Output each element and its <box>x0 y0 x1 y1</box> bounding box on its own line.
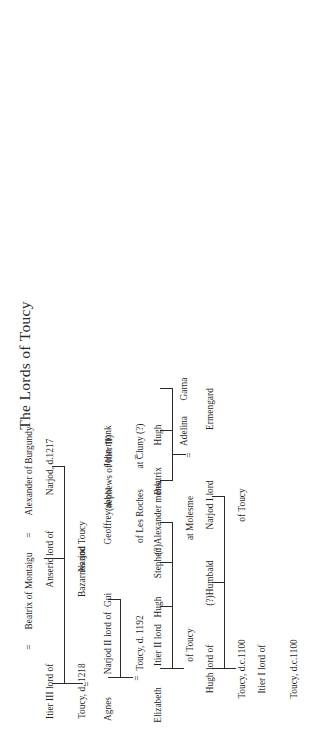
person-line-2: at Cluny (?) <box>135 423 146 468</box>
marriage-symbol-itier3-beatrix: = <box>24 644 35 649</box>
person-line-1: (?)Humbald <box>205 560 216 605</box>
connector-anseric-to-narjod <box>44 558 55 559</box>
connector-hughlord-stem <box>172 668 184 669</box>
person-garna: Garna <box>158 378 211 401</box>
person-line-2: of Les Roches <box>135 487 146 544</box>
connector-narjod1-marriage-stem <box>172 454 186 455</box>
person-line-2: Toucy, d. 1218 <box>77 663 88 719</box>
annotation-nephews-of-itier-ii: (nephews of Itier II) <box>104 435 115 511</box>
chart-rotation-stage: The Lords of Toucy Itier I lord of Toucy… <box>0 0 333 731</box>
person-line-2: of Toucy <box>237 480 248 529</box>
connector-gen4-drop-narjod2 <box>108 677 121 678</box>
person-line-1: Adelina <box>179 416 190 446</box>
person-itier-iii: Itier III lord of Toucy, d. 1218 <box>24 663 109 719</box>
person-line-1: Elizabeth <box>153 687 164 723</box>
person-line-2: Toucy, d.c.1100 <box>237 639 248 699</box>
person-line-1: Garna <box>179 378 190 401</box>
person-line-1: Itier III lord of <box>45 663 56 719</box>
person-line-1: Narjod, d.1217 <box>45 439 56 496</box>
person-narjod-final: Narjod <box>56 546 109 572</box>
person-humbald: (?)Humbald <box>184 560 237 605</box>
person-line-2: Toucy, d.c.1100 <box>289 639 300 699</box>
person-john-monk-cluny: John monk at Cluny (?) <box>82 423 167 468</box>
person-line-1: Narjod <box>77 546 88 572</box>
person-line-2: at Molesme <box>185 481 196 554</box>
person-elizabeth: Elizabeth <box>132 687 185 723</box>
person-narjod-d1217: Narjod, d.1217 <box>24 439 77 496</box>
person-line-2: Toucy, d. 1192 <box>135 612 146 675</box>
marriage-symbol-elizabeth-itier2: = <box>132 675 143 680</box>
person-line-1: Anseric lord of <box>45 521 56 597</box>
person-line-2: of Toucy <box>185 624 196 666</box>
connector-itier2-marriage-stem <box>120 677 133 678</box>
genealogy-chart: The Lords of Toucy Itier I lord of Toucy… <box>0 0 333 731</box>
